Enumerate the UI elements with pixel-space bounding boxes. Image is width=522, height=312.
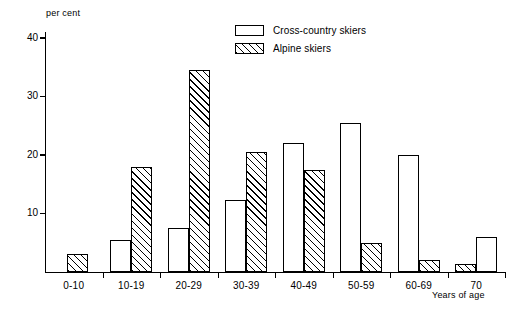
bar-alpine-50-59 xyxy=(361,243,382,272)
bar-cross-country-50-59 xyxy=(340,123,361,272)
chart-legend: Cross-country skiers Alpine skiers xyxy=(235,22,366,58)
x-tick-label: 40-49 xyxy=(275,280,333,291)
bar-cross-country-30-39 xyxy=(225,200,246,272)
bar-cross-country-40-49 xyxy=(283,143,304,272)
legend-swatch-hatched-rect xyxy=(235,43,264,54)
bar-alpine-10-19 xyxy=(131,167,152,272)
x-tick-mark xyxy=(275,272,276,278)
x-tick-mark xyxy=(218,272,219,278)
legend-entry-alpine: Alpine skiers xyxy=(235,40,366,56)
legend-label-cross-country: Cross-country skiers xyxy=(273,25,366,36)
y-tick-label: 20 xyxy=(14,149,38,160)
y-tick-label: 10 xyxy=(14,207,38,218)
x-tick-label: 0-10 xyxy=(45,280,103,291)
legend-label-alpine: Alpine skiers xyxy=(273,43,331,54)
x-tick-mark xyxy=(103,272,104,278)
y-axis-unit-label: per cent xyxy=(46,8,80,18)
y-tick-label: 30 xyxy=(14,90,38,101)
bar-cross-country-20-29 xyxy=(168,228,189,272)
legend-swatch-white-rect xyxy=(235,25,264,36)
bar-alpine-20-29 xyxy=(189,70,210,272)
x-tick-label: 30-39 xyxy=(218,280,276,291)
x-tick-mark xyxy=(390,272,391,278)
bar-alpine-30-39 xyxy=(246,152,267,272)
x-tick-label: 50-59 xyxy=(333,280,391,291)
x-tick-mark xyxy=(505,272,506,278)
x-tick-mark xyxy=(333,272,334,278)
bar-alpine-60-69 xyxy=(419,260,440,272)
bar-cross-country-60-69 xyxy=(398,155,419,272)
x-tick-label: 70 xyxy=(448,280,506,291)
x-tick-mark xyxy=(448,272,449,278)
plot-area xyxy=(45,32,505,272)
bar-chart: per cent Years of age 10203040 0-1010-19… xyxy=(0,0,522,312)
bar-alpine-0-10 xyxy=(67,254,88,272)
bar-cross-country-70 xyxy=(476,237,497,272)
bar-cross-country-10-19 xyxy=(110,240,131,272)
x-tick-mark xyxy=(160,272,161,278)
y-tick-label: 40 xyxy=(14,32,38,43)
x-tick-label: 20-29 xyxy=(160,280,218,291)
bar-alpine-70 xyxy=(455,264,476,272)
x-tick-label: 10-19 xyxy=(103,280,161,291)
x-axis-label: Years of age xyxy=(432,290,485,300)
legend-entry-cross-country: Cross-country skiers xyxy=(235,22,366,38)
x-tick-label: 60-69 xyxy=(390,280,448,291)
bar-alpine-40-49 xyxy=(304,170,325,272)
